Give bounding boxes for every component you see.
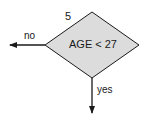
no-branch-label: no [24,31,35,41]
yes-branch-label: yes [97,85,113,95]
decision-condition: AGE < 27 [58,39,128,50]
flowchart-canvas [0,0,150,126]
node-number: 5 [65,11,71,22]
